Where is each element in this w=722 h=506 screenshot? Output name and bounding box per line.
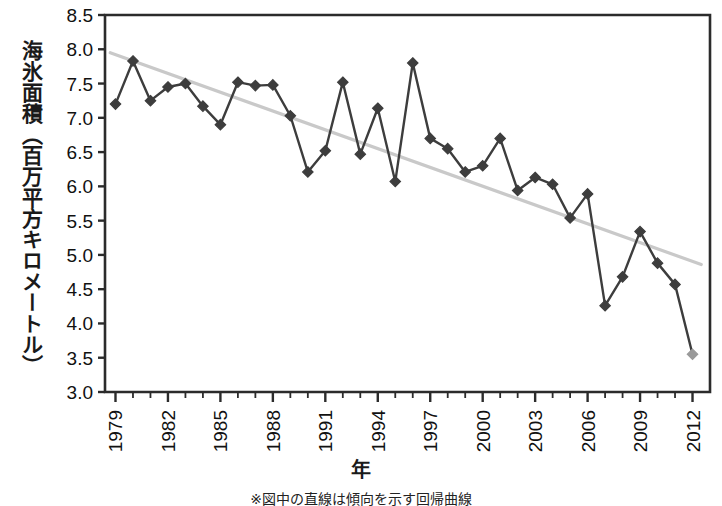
data-point-marker	[390, 176, 400, 186]
y-tick-label: 8.0	[67, 39, 93, 60]
data-point-marker	[617, 272, 627, 282]
data-point-marker	[268, 80, 278, 90]
x-tick-labels: 1979198219851988199119941997200020032006…	[105, 410, 703, 453]
data-point-marker	[687, 349, 697, 359]
data-point-marker	[547, 179, 557, 189]
x-tick-label: 1985	[210, 410, 231, 452]
y-tick-label: 7.5	[67, 74, 93, 95]
y-tick-label: 3.0	[67, 382, 93, 403]
y-tick-label: 3.5	[67, 348, 93, 369]
x-tick-label: 1994	[368, 410, 389, 453]
chart-footnote: ※図中の直線は傾向を示す回帰曲線	[0, 488, 722, 506]
x-tick-label: 1991	[315, 410, 336, 452]
x-tick-label: 1988	[263, 410, 284, 452]
data-point-marker	[600, 300, 610, 310]
data-point-marker	[425, 133, 435, 143]
data-point-marker	[233, 77, 243, 87]
x-axis-title: 年	[0, 454, 722, 483]
sea-ice-extent-chart: 海氷面積（百万平方キロメートル） 8.58.07.57.06.56.05.55.…	[0, 0, 722, 506]
y-tick-label: 4.0	[67, 313, 93, 334]
y-tick-label: 5.5	[67, 211, 93, 232]
x-tick-label: 2012	[683, 410, 704, 452]
data-point-marker	[128, 56, 138, 66]
x-tick-label: 2000	[473, 410, 494, 452]
data-point-marker	[250, 80, 260, 90]
axis-group	[98, 15, 710, 402]
y-tick-label: 6.5	[67, 142, 93, 163]
y-tick-label: 7.0	[67, 108, 93, 129]
x-tick-label: 2006	[578, 410, 599, 452]
x-tick-label: 1982	[158, 410, 179, 452]
data-point-marker	[355, 149, 365, 159]
y-tick-label: 5.0	[67, 245, 93, 266]
x-tick-label: 1979	[105, 410, 126, 452]
data-point-marker	[110, 99, 120, 109]
data-point-marker	[635, 226, 645, 236]
y-tick-labels: 8.58.07.57.06.56.05.55.04.54.03.53.0	[67, 5, 93, 403]
x-tick-label: 2003	[525, 410, 546, 452]
data-point-marker	[408, 58, 418, 68]
y-tick-label: 4.5	[67, 279, 93, 300]
trendline	[110, 53, 701, 265]
plot-area: 8.58.07.57.06.56.05.55.04.54.03.53.0 197…	[0, 0, 722, 506]
x-tick-label: 2009	[630, 410, 651, 452]
data-point-marker	[338, 77, 348, 87]
data-point-marker	[373, 103, 383, 113]
x-tick-label: 1997	[420, 410, 441, 452]
y-tick-label: 6.0	[67, 176, 93, 197]
y-tick-label: 8.5	[67, 5, 93, 26]
